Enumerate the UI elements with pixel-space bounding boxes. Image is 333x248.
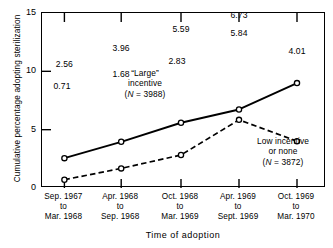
data-point-marker <box>236 117 241 122</box>
data-point-marker <box>178 152 183 157</box>
x-tick-label-5-line3: Mar. 1970 <box>262 212 330 222</box>
point-label-large-2: 3.96 <box>113 43 130 53</box>
x-tick-label-5-line2: to <box>262 202 330 212</box>
chart-figure: Cumulative percentage adopting steriliza… <box>0 0 333 248</box>
point-label-large-3: 5.59 <box>172 24 189 34</box>
data-point-marker <box>236 107 241 112</box>
data-point-marker <box>62 156 67 161</box>
y-axis-title: Cumulative percentage adopting steriliza… <box>13 4 22 194</box>
x-tick-label-5: Oct. 1969 to Mar. 1970 <box>262 192 330 223</box>
y-tick-marks <box>42 71 51 129</box>
plot-area: 2.56 3.96 5.59 6.73 8.99 0.71 1.68 2.83 … <box>41 12 325 187</box>
annotation-low-incentive: Low incentive or none (N = 3872) <box>241 136 325 167</box>
point-label-low-5: 4.01 <box>288 46 305 56</box>
point-label-large-1: 2.56 <box>56 59 73 69</box>
annotation-low-line1: Low incentive <box>241 136 325 146</box>
x-tick-marks-bottom <box>64 179 297 188</box>
x-tick-label-5-line1: Oct. 1969 <box>262 192 330 202</box>
data-point-marker <box>62 177 67 182</box>
x-tick-marks-top <box>64 13 297 22</box>
point-label-large-4: 6.73 <box>230 10 247 20</box>
data-point-marker <box>294 81 299 86</box>
x-tick-label-2-line2: to <box>86 202 154 212</box>
data-point-marker <box>119 139 124 144</box>
point-label-low-3: 2.83 <box>168 56 185 66</box>
annotation-large-line1: “Large” <box>104 68 186 78</box>
x-tick-label-2: Apr. 1968 to Sep. 1968 <box>86 192 154 223</box>
point-label-low-1: 0.71 <box>53 81 70 91</box>
annotation-low-line3: (N = 3872) <box>241 157 325 167</box>
x-tick-label-2-line1: Apr. 1968 <box>86 192 154 202</box>
annotation-large-line3: (N = 3988) <box>104 89 186 99</box>
data-point-marker <box>178 120 183 125</box>
annotation-large-line2: incentive <box>104 78 186 88</box>
point-label-low-4: 5.84 <box>230 28 247 38</box>
annotation-large-incentive: “Large” incentive (N = 3988) <box>104 68 186 99</box>
x-axis-title: Time of adoption <box>41 230 325 240</box>
data-point-marker <box>119 166 124 171</box>
x-tick-label-2-line3: Sep. 1968 <box>86 212 154 222</box>
annotation-low-line2: or none <box>241 146 325 156</box>
